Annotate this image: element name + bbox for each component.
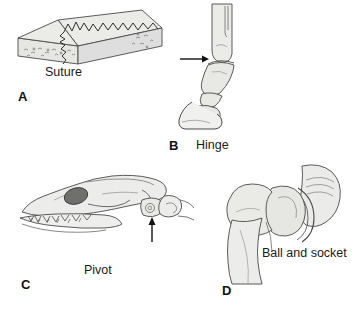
panel-d-ball-socket-illustration <box>206 160 356 285</box>
panel-c-pivot-illustration <box>14 160 194 265</box>
panel-a-suture-illustration <box>14 6 164 76</box>
hip-joint-svg <box>206 160 356 285</box>
axis-vertebra <box>159 196 182 218</box>
panel-letter-b: B <box>169 138 179 153</box>
panel-letter-a: A <box>18 89 28 104</box>
ilium-pelvis <box>300 165 340 227</box>
neck-outline-lower <box>178 216 194 220</box>
caption-ball-and-socket: Ball and socket <box>262 246 347 260</box>
pivot-joint-arrow <box>149 217 156 242</box>
cannon-bone <box>212 4 232 62</box>
femur-shaft <box>228 218 263 284</box>
hinge-joint-arrow <box>180 56 209 63</box>
panel-b-hinge-illustration <box>178 2 288 134</box>
horse-limb-svg <box>178 2 288 134</box>
long-pastern-bone <box>201 63 234 96</box>
caption-hinge: Hinge <box>196 138 229 152</box>
panel-letter-c: C <box>21 277 31 292</box>
neck-outline-upper <box>180 200 194 208</box>
panel-letter-d: D <box>222 283 232 298</box>
dog-skull-svg <box>14 160 194 265</box>
caption-pivot: Pivot <box>84 263 112 277</box>
joint-types-figure: Suture A <box>0 0 360 309</box>
suture-block-svg <box>14 6 164 76</box>
caption-suture: Suture <box>45 65 82 79</box>
